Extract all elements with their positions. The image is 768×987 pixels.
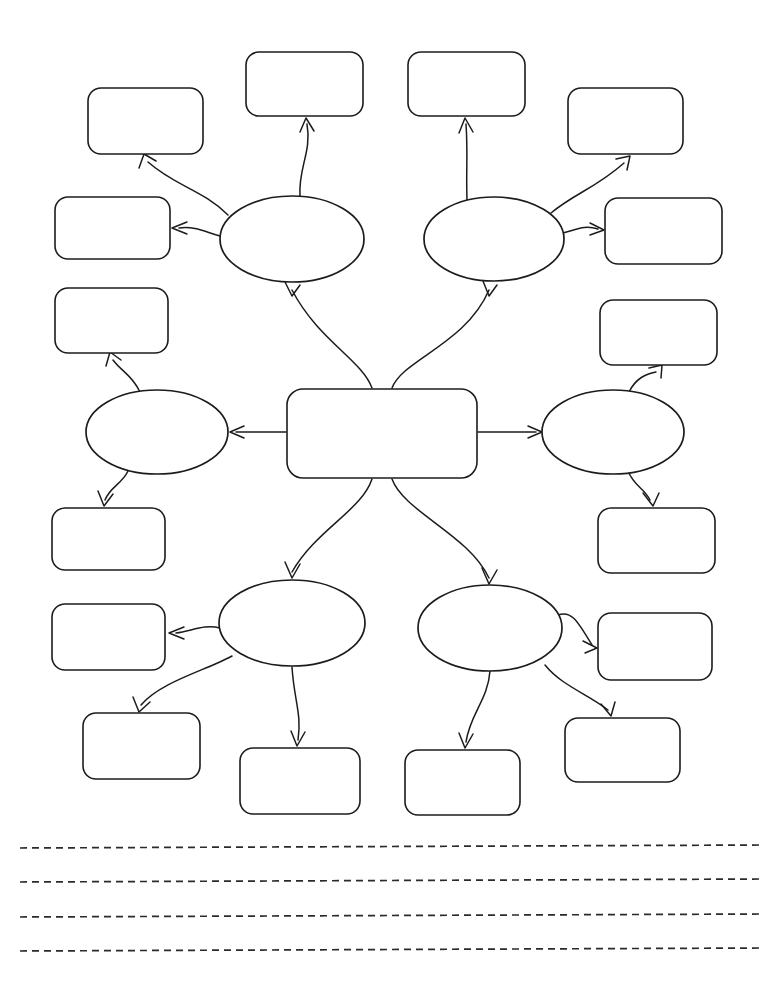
ellipse-top-right-shape[interactable] [424,197,564,281]
leaf-box-11-shape[interactable] [52,604,165,670]
connector-center-to-ellipse-top-left [285,282,372,388]
ellipse-node-top-right[interactable] [424,197,564,281]
leaf-box-13-shape[interactable] [240,748,360,814]
center-node[interactable] [287,389,477,478]
connector-ellipse-top-left-to-box-03 [172,222,220,236]
writing-lines-section [20,845,760,951]
leaf-box-06[interactable] [605,198,722,264]
leaf-box-12-shape[interactable] [83,713,200,779]
leaf-box-14-shape[interactable] [405,750,520,815]
connector-center-to-ellipse-bottom-right [392,479,497,584]
leaf-box-02[interactable] [246,52,363,116]
ellipse-node-top-left[interactable] [220,196,364,282]
leaf-box-08-shape[interactable] [52,508,165,570]
leaf-box-04[interactable] [408,52,525,116]
ellipse-node-bottom-right[interactable] [418,585,562,671]
connector-center-to-ellipse-left [230,426,286,438]
leaf-box-08[interactable] [52,508,165,570]
ellipse-bottom-left-shape[interactable] [219,580,365,666]
center-node-shape[interactable] [287,389,477,478]
leaf-box-03-shape[interactable] [55,197,170,259]
writing-line-1[interactable] [20,845,760,848]
connector-ellipse-right-to-box-09 [629,365,662,392]
leaf-box-03[interactable] [55,197,170,259]
connector-ellipse-top-right-to-box-06 [563,223,604,235]
leaf-box-09-shape[interactable] [600,300,717,365]
leaf-box-01-shape[interactable] [88,88,203,154]
leaf-box-10-shape[interactable] [598,508,715,573]
ellipse-node-left[interactable] [86,390,228,474]
leaf-box-07[interactable] [55,288,168,353]
leaf-box-07-shape[interactable] [55,288,168,353]
connector-ellipse-bottom-right-to-box-15 [558,614,597,653]
leaf-box-12[interactable] [83,713,200,779]
writing-line-4[interactable] [20,948,760,951]
worksheet-page [0,0,768,987]
connector-center-to-ellipse-bottom-left [285,479,372,578]
connector-ellipse-bottom-right-to-box-14 [459,671,490,748]
connector-center-to-ellipse-top-right [392,281,497,388]
leaf-box-09[interactable] [600,300,717,365]
leaf-box-10[interactable] [598,508,715,573]
leaf-box-01[interactable] [88,88,203,154]
leaf-box-04-shape[interactable] [408,52,525,116]
leaf-box-14[interactable] [405,750,520,815]
ellipse-top-left-shape[interactable] [220,196,364,282]
graphic-organizer-diagram [0,0,768,987]
leaf-box-13[interactable] [240,748,360,814]
ellipse-node-right[interactable] [542,390,684,474]
connector-ellipse-top-left-to-box-02 [300,118,314,196]
connector-ellipse-bottom-left-to-box-11 [169,627,220,639]
writing-line-2[interactable] [20,879,760,882]
leaf-box-11[interactable] [52,604,165,670]
leaf-box-16-shape[interactable] [565,718,680,782]
connector-ellipse-left-to-box-08 [98,471,128,506]
ellipse-node-bottom-left[interactable] [219,580,365,666]
writing-line-3[interactable] [20,914,760,917]
connector-ellipse-top-right-to-box-04 [459,118,473,200]
leaf-box-02-shape[interactable] [246,52,363,116]
leaf-box-05-shape[interactable] [568,88,683,154]
connector-ellipse-bottom-left-to-box-13 [291,667,305,746]
leaf-box-15[interactable] [598,613,712,680]
leaf-box-16[interactable] [565,718,680,782]
ellipse-bottom-right-shape[interactable] [418,585,562,671]
ellipse-right-shape[interactable] [542,390,684,474]
connector-center-to-ellipse-right [478,426,542,438]
connector-ellipse-right-to-box-10 [628,471,659,506]
leaf-box-15-shape[interactable] [598,613,712,680]
connector-ellipse-left-to-box-07 [106,352,140,392]
leaf-box-06-shape[interactable] [605,198,722,264]
leaf-box-05[interactable] [568,88,683,154]
ellipse-left-shape[interactable] [86,390,228,474]
